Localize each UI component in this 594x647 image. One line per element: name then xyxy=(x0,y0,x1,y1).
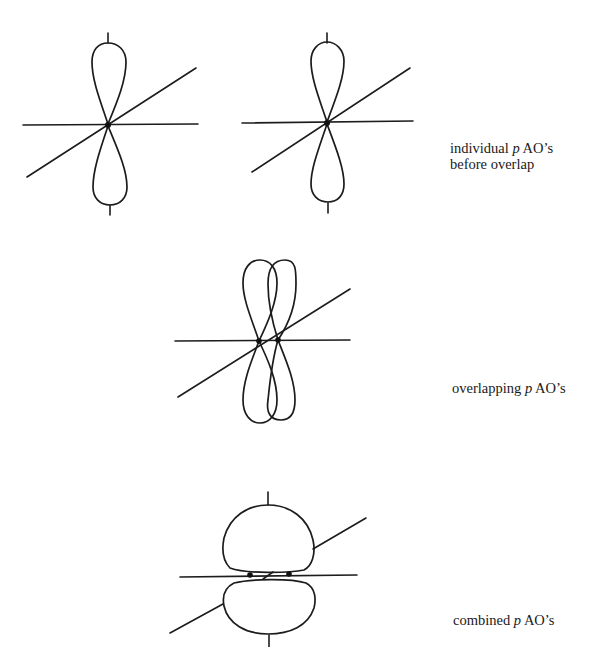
left-upper-lobe xyxy=(243,260,277,341)
z-axis xyxy=(27,68,196,177)
upper-lobe xyxy=(311,42,344,122)
nucleus-left xyxy=(247,572,253,578)
caption-individual-line2: before overlap xyxy=(450,156,553,172)
caption-individual-var: p xyxy=(512,140,519,156)
caption-combined: combined p AO’s xyxy=(453,612,555,628)
overlapping-orbitals xyxy=(175,260,350,423)
nucleus-right xyxy=(286,571,292,577)
caption-individual: individual p AO’s before overlap xyxy=(450,140,553,172)
upper-pi-lobe xyxy=(223,505,314,572)
nucleus-right xyxy=(275,337,281,343)
nucleus-left xyxy=(256,338,262,344)
lower-lobe xyxy=(311,124,344,202)
orbital-figure: individual p AO’s before overlap overlap… xyxy=(0,0,594,647)
lower-pi-lobe xyxy=(223,580,315,634)
z-axis-upper-segment xyxy=(313,518,366,549)
lower-lobe xyxy=(93,126,127,205)
z-axis xyxy=(178,289,350,397)
z-axis-lower-segment xyxy=(170,604,223,633)
right-lower-lobe xyxy=(268,340,295,420)
caption-combined-var: p xyxy=(514,612,521,628)
caption-overlapping-pre: overlapping xyxy=(452,380,525,396)
caption-combined-pre: combined xyxy=(453,612,514,628)
caption-combined-post: AO’s xyxy=(521,612,554,628)
caption-individual-post: AO’s xyxy=(520,140,553,156)
caption-overlapping-post: AO’s xyxy=(532,380,565,396)
p-orbital-left xyxy=(23,33,198,215)
z-axis xyxy=(252,68,410,172)
upper-lobe xyxy=(92,43,126,124)
caption-individual-pre: individual xyxy=(450,140,512,156)
right-upper-lobe xyxy=(268,260,296,340)
p-orbital-right xyxy=(242,33,413,213)
combined-orbital xyxy=(170,492,366,647)
nucleus xyxy=(105,122,111,128)
caption-overlapping: overlapping p AO’s xyxy=(452,380,566,396)
x-axis xyxy=(175,340,350,341)
nucleus xyxy=(324,120,330,126)
